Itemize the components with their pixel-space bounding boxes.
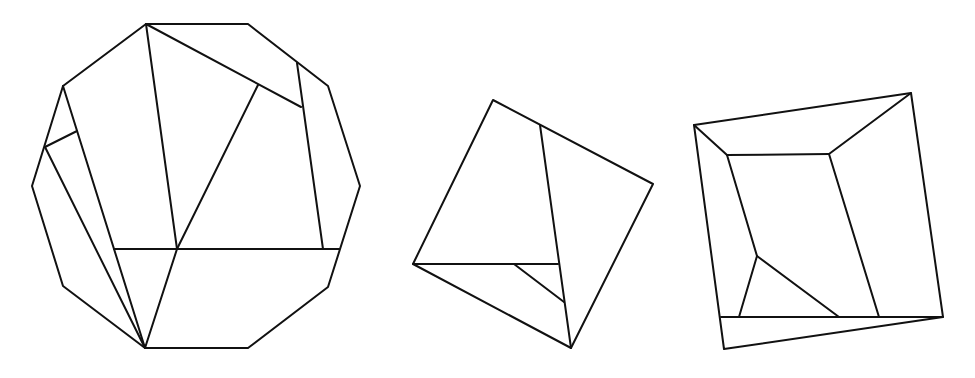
decagon-dissection-segment xyxy=(297,63,323,249)
decagon-dissection-segment xyxy=(45,131,77,147)
decagon-dissection-outline xyxy=(32,24,360,348)
quadrilateral-dissection-segment xyxy=(829,154,879,317)
decagon-dissection-segment xyxy=(146,24,177,249)
square-dissection-segment xyxy=(514,264,564,302)
diagram-canvas xyxy=(0,0,975,378)
quadrilateral-dissection-segment xyxy=(694,125,727,155)
quadrilateral-dissection-segment xyxy=(829,93,911,154)
quadrilateral-dissection-segment xyxy=(727,154,829,155)
decagon-dissection-segment xyxy=(145,249,177,348)
decagon-dissection-segment xyxy=(45,147,145,348)
quadrilateral-dissection xyxy=(694,93,943,349)
square-dissection-outline xyxy=(413,100,653,348)
quadrilateral-dissection-segment xyxy=(757,256,839,317)
square-dissection xyxy=(413,100,653,348)
quadrilateral-dissection-segment xyxy=(727,155,757,256)
decagon-dissection xyxy=(32,24,360,348)
quadrilateral-dissection-outline xyxy=(694,93,943,349)
decagon-dissection-segment xyxy=(63,86,145,348)
square-dissection-segment xyxy=(540,125,571,348)
quadrilateral-dissection-segment xyxy=(739,256,757,317)
decagon-dissection-segment xyxy=(146,24,301,107)
decagon-dissection-segment xyxy=(177,85,258,249)
